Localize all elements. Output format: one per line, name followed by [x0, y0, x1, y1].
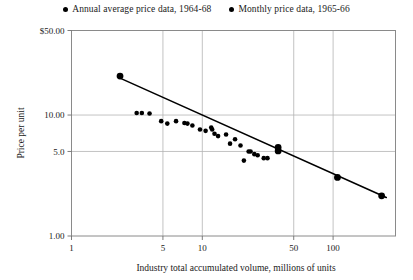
x-tick-label: 10	[198, 243, 208, 253]
y-tick-label: 10.00	[44, 110, 65, 120]
trend-line	[120, 78, 386, 197]
data-point	[248, 149, 253, 154]
x-axis-label: Industry total accumulated volume, milli…	[136, 263, 336, 273]
data-point	[185, 121, 190, 126]
data-point	[242, 158, 247, 163]
x-tick-label: 5	[161, 243, 166, 253]
y-tick-label: 1.00	[49, 231, 65, 241]
data-point	[255, 153, 260, 158]
plot-frame	[72, 31, 396, 237]
data-point	[265, 156, 270, 161]
data-point	[198, 127, 203, 132]
x-tick-labels: 151050100	[69, 243, 340, 253]
data-point	[216, 134, 221, 139]
data-point	[224, 132, 229, 137]
data-point	[233, 137, 238, 142]
data-point	[210, 127, 215, 132]
tickmarks	[68, 31, 334, 241]
x-tick-label: 100	[326, 243, 340, 253]
y-tick-label: 5.0	[53, 147, 65, 157]
gridlines	[72, 31, 396, 237]
data-point	[334, 174, 341, 181]
data-point	[147, 111, 152, 116]
data-point	[117, 73, 124, 80]
data-point	[238, 143, 243, 148]
experience-curve-figure: Annual average price data, 1964-68 Month…	[0, 0, 413, 280]
plot-area: 1.005.010.00$50.00 151050100 Industry to…	[0, 0, 413, 280]
data-point	[275, 148, 282, 155]
data-point	[134, 111, 139, 116]
y-axis-label: Price per unit	[16, 107, 26, 159]
data-point	[174, 119, 179, 124]
data-point	[159, 119, 164, 124]
data-point	[165, 121, 170, 126]
x-tick-label: 1	[69, 243, 74, 253]
data-point	[228, 141, 233, 146]
x-tick-label: 50	[289, 243, 299, 253]
data-point	[140, 111, 145, 116]
data-point	[378, 192, 385, 199]
y-tick-labels: 1.005.010.00$50.00	[40, 26, 65, 242]
data-point	[190, 123, 195, 128]
data-point	[203, 129, 208, 134]
y-tick-label: $50.00	[40, 26, 65, 36]
